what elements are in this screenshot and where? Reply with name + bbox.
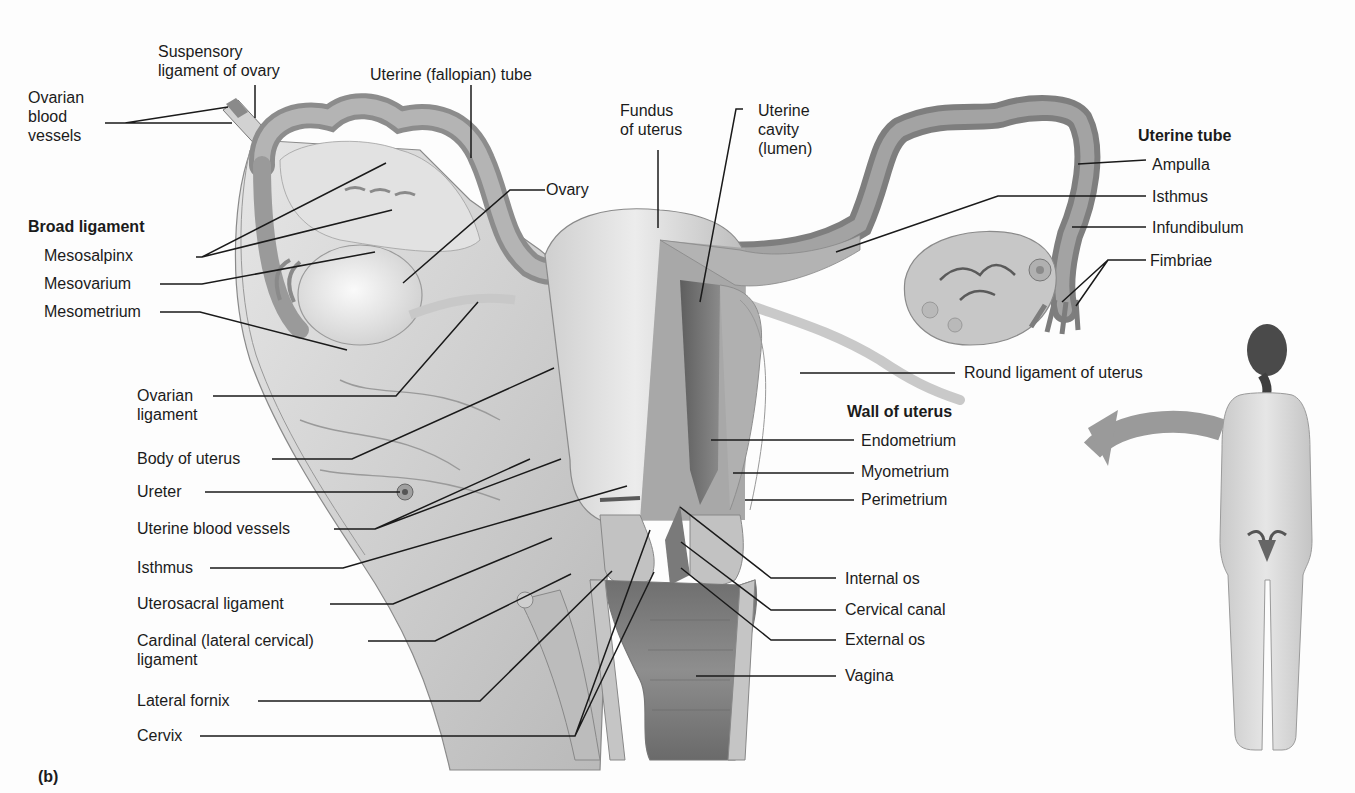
label-line: ligament: [137, 650, 314, 669]
label-external-os: External os: [845, 630, 925, 649]
label-fundus: Fundus of uterus: [620, 101, 682, 139]
label-line: ligament of ovary: [158, 61, 280, 80]
label-endometrium: Endometrium: [861, 431, 956, 450]
label-ovary: Ovary: [546, 180, 589, 199]
header-broad-ligament: Broad ligament: [28, 217, 144, 236]
label-line: Ovarian: [28, 88, 84, 107]
label-line: Fundus: [620, 101, 682, 120]
label-ovarian-ligament: Ovarian ligament: [137, 386, 197, 424]
human-figure-posterior: [1088, 324, 1312, 750]
label-mesometrium: Mesometrium: [44, 302, 141, 321]
label-line: cavity: [758, 120, 812, 139]
right-ovary-shape: [904, 231, 1056, 345]
label-uterosacral-ligament: Uterosacral ligament: [137, 594, 284, 613]
label-round-ligament: Round ligament of uterus: [964, 363, 1143, 382]
label-line: Uterine: [758, 101, 812, 120]
label-isthmus-left: Isthmus: [137, 558, 193, 577]
label-line: of uterus: [620, 120, 682, 139]
label-uterine-blood-vessels: Uterine blood vessels: [137, 519, 290, 538]
label-internal-os: Internal os: [845, 569, 920, 588]
label-perimetrium: Perimetrium: [861, 490, 947, 509]
label-line: Cardinal (lateral cervical): [137, 631, 314, 650]
label-myometrium: Myometrium: [861, 462, 949, 481]
label-vagina: Vagina: [845, 666, 894, 685]
header-wall-of-uterus: Wall of uterus: [847, 402, 952, 421]
label-line: Suspensory: [158, 42, 280, 61]
label-fimbriae: Fimbriae: [1150, 251, 1212, 270]
label-line: Ovarian: [137, 386, 197, 405]
label-cardinal-ligament: Cardinal (lateral cervical) ligament: [137, 631, 314, 669]
label-ovarian-blood-vessels: Ovarian blood vessels: [28, 88, 84, 145]
label-infundibulum: Infundibulum: [1152, 218, 1244, 237]
label-line: vessels: [28, 126, 84, 145]
label-mesovarium: Mesovarium: [44, 274, 131, 293]
label-line: blood: [28, 107, 84, 126]
vagina-shape: [590, 580, 757, 760]
label-uterine-fallopian-tube: Uterine (fallopian) tube: [370, 65, 532, 84]
label-lateral-fornix: Lateral fornix: [137, 691, 230, 710]
label-mesosalpinx: Mesosalpinx: [44, 246, 133, 265]
label-ampulla: Ampulla: [1152, 155, 1210, 174]
label-uterine-cavity: Uterine cavity (lumen): [758, 101, 812, 158]
header-uterine-tube: Uterine tube: [1138, 126, 1231, 145]
label-suspensory-ligament: Suspensory ligament of ovary: [158, 42, 280, 80]
panel-label: (b): [38, 767, 58, 786]
label-isthmus-right: Isthmus: [1152, 187, 1208, 206]
label-cervical-canal: Cervical canal: [845, 600, 945, 619]
label-ureter: Ureter: [137, 482, 181, 501]
label-line: ligament: [137, 405, 197, 424]
left-ovary-shape: [298, 245, 422, 345]
label-line: (lumen): [758, 139, 812, 158]
label-body-of-uterus: Body of uterus: [137, 449, 240, 468]
label-cervix: Cervix: [137, 726, 182, 745]
